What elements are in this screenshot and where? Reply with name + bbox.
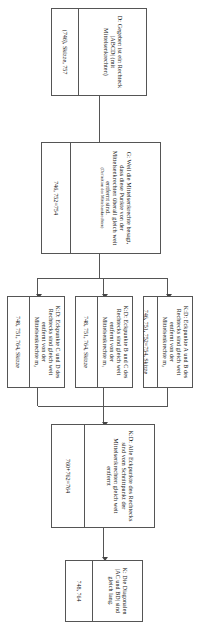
node-given-d-text: D: Gegeben ist ein Rechteck |ABCD| (mit … [79,9,146,95]
node-claim-k1-refs: 746, 751, 752=754, Skizze [135,297,157,387]
node-ground-g[interactable]: G: Weil die Mittelsenkrechte besagt, das… [41,142,161,254]
node-ground-g-note: (Definition der Mittelsenkrechten) [99,147,104,249]
connector-k2-out [103,388,104,406]
node-ground-g-refs: 746, 752=754 [42,143,70,253]
divider [84,425,85,527]
diagram-rotated-layer: D: Gegeben ist ein Rechteck |ABCD| (mit … [0,0,199,630]
node-claim-k2-refs: 748, 751, 764, Skizze [75,297,97,387]
node-claim-k3-refs: 748, 751, 764, Skizze [7,297,29,387]
node-given-d[interactable]: D: Gegeben ist ein Rechteck |ABCD| (mit … [51,8,147,96]
connector-k3-out [37,388,38,406]
node-ground-g-text: G: Weil die Mittelsenkrechte besagt, das… [71,143,160,253]
node-claim-summary-refs: 760+762=764 [52,425,84,527]
diagram-canvas: D: Gegeben ist ein Rechteck |ABCD| (mit … [0,0,199,630]
divider [29,297,30,387]
node-claim-summary-text: K:D: Alle Eckpunkte des Rechtecks sind v… [85,425,154,527]
connector-g-to-bus [99,254,100,278]
node-claim-k3[interactable]: K:D: Eckpunkte C und D des Rechtecks sin… [7,296,65,388]
divider [70,143,71,253]
node-conclusion-k-refs: 748, 764 [66,561,92,621]
divider [92,561,93,621]
node-claim-k1-text: K:D: Eckpunkte A und B des Rechtecks sin… [158,297,192,387]
node-ground-g-main: G: Weil die Mittelsenkrechte besagt, das… [105,151,133,246]
node-conclusion-k-text: K: Die Diagonalen |AC und BD| sind gleic… [93,561,142,621]
node-claim-k2[interactable]: K:D: Eckpunkte B und C des Rechtecks sin… [75,296,133,388]
divider [157,297,158,387]
node-claim-k2-text: K:D: Eckpunkte B und C des Rechtecks sin… [98,297,132,387]
divider [97,297,98,387]
node-claim-summary[interactable]: K:D: Alle Eckpunkte des Rechtecks sind v… [51,424,155,528]
node-given-d-refs: (746), Skizze, 757 [52,9,78,95]
node-conclusion-k[interactable]: K: Die Diagonalen |AC und BD| sind gleic… [65,560,143,622]
node-claim-k3-text: K:D: Eckpunkte C und D des Rechtecks sin… [30,297,64,387]
connector-kd-to-k [103,528,104,558]
connector-k1-out [167,388,168,406]
connector-d-to-g [99,96,100,142]
divider [78,9,79,95]
node-claim-k1[interactable]: K:D: Eckpunkte A und B des Rechtecks sin… [143,296,193,388]
